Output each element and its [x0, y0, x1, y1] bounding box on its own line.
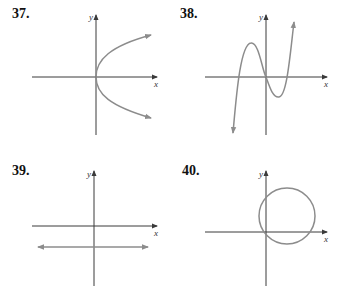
graph-number-39: 39. [12, 163, 30, 179]
graph-number-38: 38. [180, 6, 198, 22]
x-axis-label: x [154, 80, 158, 89]
y-axis-label: y [259, 170, 263, 179]
y-axis-label: y [89, 13, 93, 22]
x-axis-label: x [324, 235, 328, 244]
y-axis-label: y [259, 13, 263, 22]
graph-number-37: 37. [12, 6, 30, 22]
graphs-canvas [0, 0, 339, 287]
graph-37 [32, 15, 157, 135]
graph-38 [205, 15, 327, 135]
graph-number-40: 40. [182, 163, 200, 179]
circle [259, 188, 315, 244]
parabola-upper-branch [96, 35, 151, 77]
graph-39 [32, 171, 157, 286]
parabola-lower-branch [96, 77, 151, 118]
y-axis-label: y [87, 170, 91, 179]
x-axis-label: x [154, 229, 158, 238]
graph-40 [205, 171, 327, 286]
x-axis-label: x [324, 80, 328, 89]
